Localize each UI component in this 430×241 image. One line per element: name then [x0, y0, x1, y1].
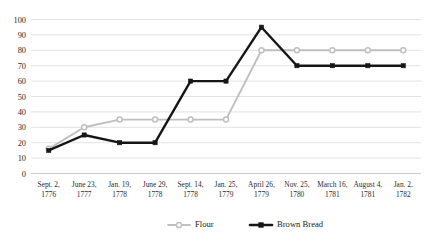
data-point-marker: [47, 148, 51, 152]
x-tick-label-line: Sept. 14,: [178, 180, 204, 189]
y-tick-label: 60: [18, 77, 26, 86]
legend-item-brown-bread[interactable]: Brown Bread: [250, 219, 324, 229]
data-point-marker: [401, 64, 405, 68]
y-tick-label: 10: [18, 154, 26, 163]
x-tick-label-line: April 26,: [248, 180, 275, 189]
data-point-marker: [224, 117, 229, 122]
x-tick-label-line: 1779: [219, 190, 234, 199]
data-point-marker: [188, 79, 192, 83]
x-tick-label-line: 1778: [148, 190, 163, 199]
legend-label: Brown Bread: [277, 219, 324, 229]
x-tick-label-line: 1779: [254, 190, 269, 199]
x-tick-label-line: 1781: [325, 190, 340, 199]
data-point-marker: [224, 79, 228, 83]
y-tick-label: 50: [18, 93, 26, 102]
data-series: [46, 25, 406, 152]
y-tick-label: 100: [13, 16, 26, 25]
x-tick-label-line: Nov. 25,: [284, 180, 309, 189]
legend-marker: [176, 222, 181, 227]
y-tick-label: 20: [18, 139, 26, 148]
x-axis-tick-labels: Sept. 2,1776June 23,1777Jan. 19,1778June…: [38, 180, 413, 200]
data-point-marker: [294, 48, 299, 53]
x-tick-label-line: 1781: [360, 190, 375, 199]
x-tick-label: August 4,1781: [353, 180, 382, 200]
x-tick-label: March 16,1781: [317, 180, 348, 200]
x-tick-label-line: June 23,: [72, 180, 97, 189]
data-point-marker: [82, 133, 86, 137]
y-tick-label: 0: [22, 170, 26, 179]
x-tick-label: June 29,1778: [143, 180, 168, 200]
chart-container: 0102030405060708090100 Sept. 2,1776June …: [0, 0, 430, 241]
data-point-marker: [153, 141, 157, 145]
chart-legend: FlourBrown Bread: [168, 219, 324, 229]
x-tick-label-line: June 29,: [143, 180, 168, 189]
data-point-marker: [365, 48, 370, 53]
x-tick-label: Nov. 25,1780: [284, 180, 309, 200]
legend-marker: [259, 223, 264, 228]
series-flour: [46, 48, 406, 152]
x-tick-label: Sept. 2,1776: [38, 180, 61, 200]
x-tick-label-line: August 4,: [353, 180, 382, 189]
data-point-marker: [82, 125, 87, 130]
data-point-marker: [153, 117, 158, 122]
x-tick-label-line: 1782: [396, 190, 411, 199]
x-tick-label-line: Sept. 2,: [38, 180, 61, 189]
data-point-marker: [259, 25, 263, 29]
x-tick-label: Jan. 19,1778: [108, 180, 131, 200]
x-tick-label-line: 1778: [112, 190, 127, 199]
data-point-marker: [295, 64, 299, 68]
data-point-marker: [118, 141, 122, 145]
x-tick-label-line: Jan. 19,: [108, 180, 131, 189]
data-point-marker: [330, 64, 334, 68]
line-chart: 0102030405060708090100 Sept. 2,1776June …: [0, 0, 430, 241]
data-point-marker: [401, 48, 406, 53]
y-tick-label: 80: [18, 46, 26, 55]
data-point-marker: [366, 64, 370, 68]
x-tick-label-line: Jan. 2,: [394, 180, 413, 189]
x-tick-label: Jan. 25,1779: [215, 180, 238, 200]
x-tick-label-line: 1780: [290, 190, 305, 199]
series-brown-bread: [47, 25, 406, 152]
x-tick-label: Jan. 2,1782: [394, 180, 413, 200]
series-line: [49, 27, 404, 150]
gridlines: [31, 20, 421, 174]
x-tick-label: Sept. 14,1778: [178, 180, 204, 200]
y-tick-label: 90: [18, 31, 26, 40]
data-point-marker: [117, 117, 122, 122]
y-tick-label: 70: [18, 62, 26, 71]
x-tick-label-line: 1776: [41, 190, 56, 199]
x-tick-label-line: Jan. 25,: [215, 180, 238, 189]
data-point-marker: [188, 117, 193, 122]
x-tick-label: April 26,1779: [248, 180, 275, 200]
data-point-marker: [259, 48, 264, 53]
y-axis-tick-labels: 0102030405060708090100: [13, 16, 26, 179]
data-point-marker: [330, 48, 335, 53]
x-tick-label-line: 1777: [77, 190, 92, 199]
legend-item-flour[interactable]: Flour: [168, 219, 214, 229]
x-tick-label-line: March 16,: [317, 180, 348, 189]
y-tick-label: 30: [18, 123, 26, 132]
x-tick-label: June 23,1777: [72, 180, 97, 200]
legend-label: Flour: [195, 219, 214, 229]
y-tick-label: 40: [18, 108, 26, 117]
x-tick-label-line: 1778: [183, 190, 198, 199]
